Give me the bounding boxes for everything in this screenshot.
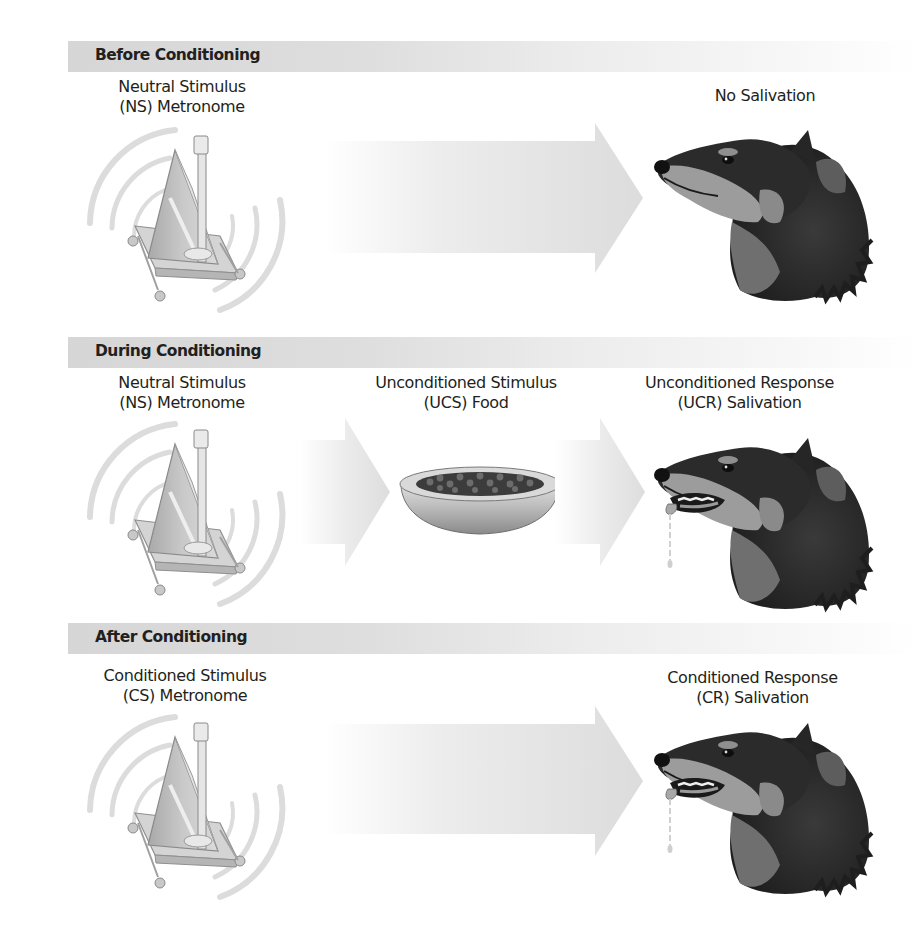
unconditioned-response-caption: Unconditioned Response (UCR) Salivation [632, 373, 847, 413]
arrow-right-icon [300, 418, 392, 566]
stage-header-bar: Before Conditioning [68, 41, 917, 72]
neutral-stimulus-caption: Neutral Stimulus (NS) Metronome [112, 373, 252, 413]
food-bowl-icon [395, 462, 565, 542]
metronome-icon [70, 705, 300, 905]
conditioned-stimulus-caption: Conditioned Stimulus (CS) Metronome [100, 666, 270, 706]
stage-title: Before Conditioning [95, 46, 260, 64]
dog-head-icon [640, 112, 880, 312]
arrow-right-icon [325, 706, 645, 856]
metronome-icon [70, 412, 300, 612]
metronome-icon [70, 118, 300, 318]
stage-header-bar: After Conditioning [68, 623, 917, 654]
conditioned-response-caption: Conditioned Response (CR) Salivation [645, 668, 860, 708]
no-salivation-caption: No Salivation [700, 86, 830, 106]
stage-header-bar: During Conditioning [68, 337, 917, 368]
stage-title: During Conditioning [95, 342, 261, 360]
unconditioned-stimulus-caption: Unconditioned Stimulus (UCS) Food [366, 373, 566, 413]
arrow-right-icon [555, 418, 647, 566]
stage-title: After Conditioning [95, 628, 247, 646]
arrow-right-icon [325, 123, 645, 273]
salivating-dog-icon [640, 420, 880, 620]
salivating-dog-icon [640, 705, 880, 905]
neutral-stimulus-caption: Neutral Stimulus (NS) Metronome [112, 77, 252, 117]
